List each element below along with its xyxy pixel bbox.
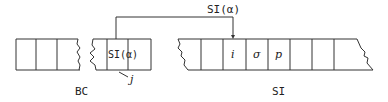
si-cell-sigma: σ [253, 49, 261, 60]
j-label: j [130, 74, 133, 85]
si-pointer-arrow [116, 17, 233, 39]
diagram-canvas [0, 0, 388, 102]
bc-cell-label: SI(α) [108, 49, 138, 60]
j-leader-line [119, 72, 128, 77]
arrow-label: SI(α) [207, 4, 240, 15]
si-cell-i: i [231, 49, 235, 60]
break-mark [357, 39, 373, 70]
break-mark [178, 39, 188, 70]
break-mark [90, 39, 96, 70]
break-mark [77, 39, 80, 70]
arrow-head-icon [231, 35, 235, 39]
si-cell-p: p [275, 49, 282, 60]
si-label: SI [272, 86, 285, 97]
bc-label: BC [75, 86, 88, 97]
bc-array-left-segment [16, 39, 80, 70]
